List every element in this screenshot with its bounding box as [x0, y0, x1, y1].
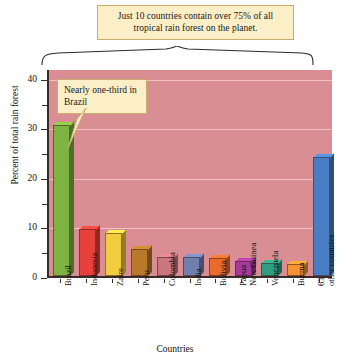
x-axis-tick-label: Brazil — [64, 265, 74, 286]
y-axis-tick — [41, 278, 47, 279]
x-axis-tick — [60, 279, 61, 283]
y-axis-tick — [42, 154, 47, 155]
y-axis-tick — [41, 129, 47, 130]
x-axis-tick-label: 63other countries — [317, 235, 336, 286]
y-axis-tick-label: 0 — [15, 272, 37, 282]
y-axis-tick — [42, 253, 47, 254]
y-axis-tick-label: 30 — [15, 123, 37, 133]
y-axis-tick — [42, 105, 47, 106]
annotation-pointer-brazil — [55, 108, 115, 150]
x-axis-tick — [138, 279, 139, 283]
x-axis-tick-label: PapuaNew Guinea — [239, 243, 258, 286]
x-axis-tick — [293, 279, 294, 283]
annotation-callout-top: Just 10 countries contain over 75% of al… — [97, 5, 294, 40]
x-axis-tick-label: Venezuela — [271, 251, 281, 286]
x-axis-tick-label: Peru — [142, 270, 152, 286]
x-axis-tick — [112, 279, 113, 283]
y-axis-tick-label: 40 — [15, 74, 37, 84]
brace-bracket — [40, 46, 315, 66]
x-axis-tick — [164, 279, 165, 283]
x-axis-tick — [86, 279, 87, 283]
x-axis-tick-label: Indonesia — [90, 253, 100, 286]
y-axis-tick-label: 20 — [15, 173, 37, 183]
x-axis-tick — [267, 279, 268, 283]
x-axis-title: Countries — [0, 344, 350, 354]
x-axis-tick-label: India — [194, 268, 204, 286]
chart-figure: Just 10 countries contain over 75% of al… — [0, 0, 350, 364]
x-axis-tick-label: Bolivia — [219, 261, 229, 286]
x-axis-tick-label: Colombia — [168, 252, 178, 286]
y-axis-tick — [42, 204, 47, 205]
y-axis-tick — [41, 228, 47, 229]
x-axis-tick-label: Zaire — [116, 268, 126, 286]
x-axis-tick — [215, 279, 216, 283]
x-axis-tick-label: Burma — [297, 263, 307, 286]
y-axis-tick — [41, 179, 47, 180]
x-axis-tick — [190, 279, 191, 283]
y-axis-tick — [41, 80, 47, 81]
y-axis-title: Percent of total rain forest — [10, 65, 20, 205]
y-axis-tick-label: 10 — [15, 222, 37, 232]
